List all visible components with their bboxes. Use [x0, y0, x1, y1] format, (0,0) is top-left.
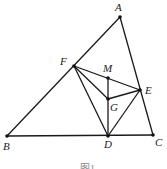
- label-M: M: [102, 62, 113, 74]
- segment-ED: [108, 90, 140, 136]
- segment-AC: [120, 17, 153, 135]
- point-B: [5, 134, 9, 138]
- label-F: F: [59, 55, 67, 67]
- label-B: B: [3, 140, 10, 152]
- label-A: A: [114, 1, 122, 13]
- label-C: C: [155, 136, 163, 148]
- segments: [7, 17, 153, 136]
- point-M: [106, 76, 110, 80]
- point-E: [138, 88, 142, 92]
- points: [5, 15, 155, 138]
- figure-caption: 图1: [80, 163, 95, 169]
- label-D: D: [103, 138, 112, 150]
- segment-BC: [7, 135, 153, 136]
- labels: ABCDEFGM: [3, 1, 163, 152]
- geometry-diagram: ABCDEFGM 图1: [0, 0, 167, 169]
- label-E: E: [144, 84, 152, 96]
- point-A: [118, 15, 122, 19]
- label-G: G: [110, 101, 118, 113]
- point-F: [72, 64, 76, 68]
